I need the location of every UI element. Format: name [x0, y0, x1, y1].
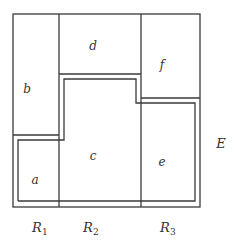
universe-square [13, 14, 200, 207]
column-label-r3: R 3 [159, 220, 176, 237]
svg-text:R: R [82, 220, 93, 235]
region-label-f: f [159, 58, 167, 72]
region-label-b: b [23, 82, 31, 96]
region-label-d: d [89, 39, 97, 53]
universe-label: E [215, 136, 226, 151]
column-label-r1: R 1 [31, 220, 48, 237]
svg-text:R: R [159, 220, 170, 235]
svg-text:R: R [31, 220, 42, 235]
svg-text:2: 2 [93, 227, 99, 237]
event-outline-ace [18, 79, 195, 201]
svg-text:1: 1 [42, 227, 48, 237]
column-label-r2: R 2 [82, 220, 99, 237]
partition-diagram: a b c d e f E R 1 R 2 R 3 [0, 0, 240, 246]
region-label-c: c [90, 149, 97, 163]
svg-text:3: 3 [170, 227, 176, 237]
region-label-a: a [31, 173, 38, 187]
region-label-e: e [158, 155, 165, 169]
